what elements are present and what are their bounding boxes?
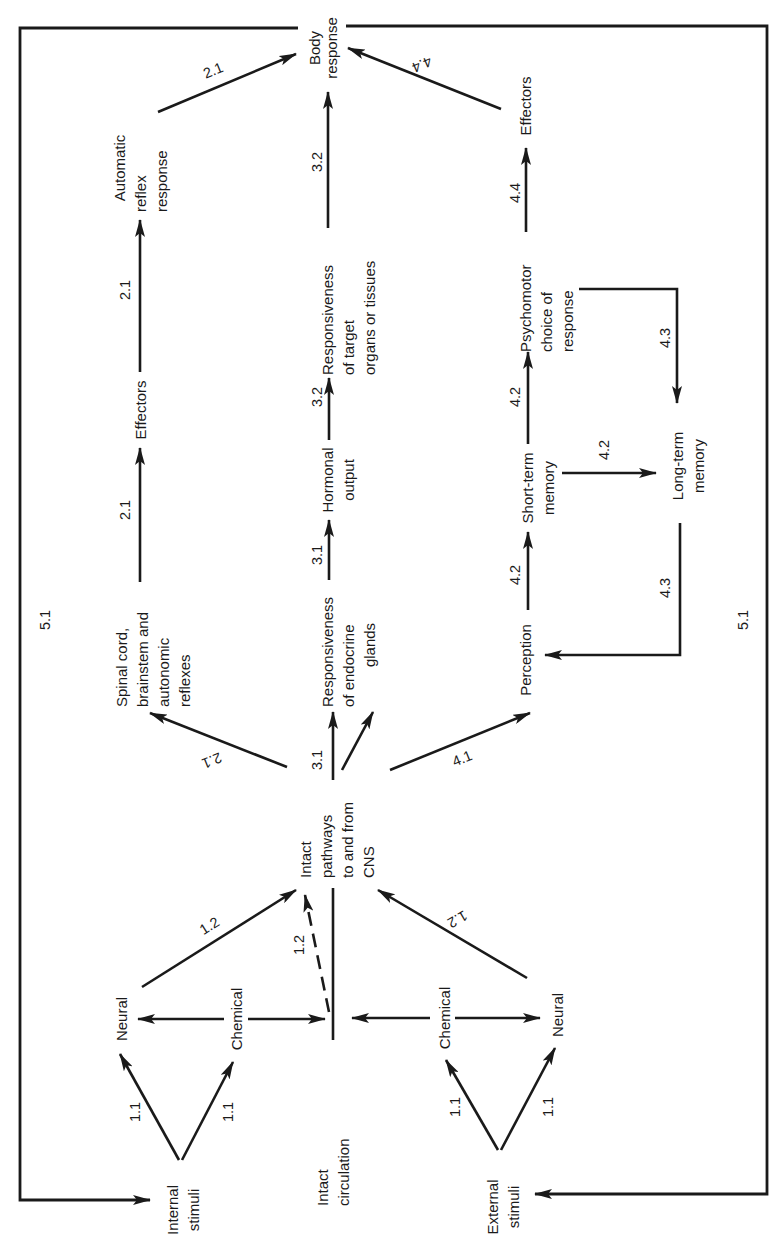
nodes: Body response Automatic reflex response … — [111, 17, 707, 1235]
edge-label-4-1: 4.1 — [450, 747, 475, 769]
node-label: response — [559, 290, 576, 352]
node-label: Psychomotor — [517, 264, 534, 352]
node-intact-pathways: Intact pathways to and from CNS — [297, 802, 377, 878]
edge-label-4-4: 4.4 — [507, 183, 523, 203]
node-label: reflex — [132, 175, 149, 212]
edge-label-1-1: 1.1 — [127, 1102, 143, 1122]
node-external-stimuli: External stimuli — [484, 1179, 522, 1234]
node-effectors-reflex: Effectors — [132, 381, 149, 440]
node-label: to and from — [339, 802, 356, 878]
node-automatic-reflex-response: Automatic reflex response — [111, 134, 170, 212]
node-label: response — [323, 17, 340, 79]
node-neural-external: Neural — [549, 993, 566, 1037]
node-body-response: Body response — [306, 17, 340, 79]
edge-label-3-2: 3.2 — [309, 152, 325, 172]
node-label: reflexes — [176, 654, 193, 707]
node-long-term-memory: Long-term memory — [669, 432, 707, 500]
node-label: Effectors — [132, 381, 149, 440]
node-label: brainstem and — [134, 612, 151, 707]
edge-label-4-3: 4.3 — [657, 328, 673, 348]
edge-label-2-1: 2.1 — [117, 280, 133, 300]
node-label: of endocrine — [340, 624, 357, 707]
node-effectors-psychomotor: Effectors — [517, 77, 534, 136]
node-label: organs or tissues — [361, 261, 378, 375]
node-spinal-cord: Spinal cord, brainstem and autonomic ref… — [113, 612, 193, 707]
node-label: Perception — [517, 624, 534, 696]
edge-pathways-to-endocrine-2 — [342, 712, 373, 770]
edge-label-1-1: 1.1 — [447, 1097, 463, 1117]
node-label: Hormonal — [319, 447, 336, 512]
node-label: autonomic — [155, 637, 172, 707]
node-label: Responsiveness — [319, 597, 336, 707]
node-label: Effectors — [517, 77, 534, 136]
node-label: output — [340, 458, 357, 501]
edge-label-1-2: 1.2 — [291, 935, 307, 955]
edge-label-2-1: 2.1 — [201, 59, 226, 81]
node-intact-circulation: Intact circulation — [314, 1138, 352, 1206]
node-label: Neural — [113, 997, 130, 1041]
edge-label-1-2: 1.2 — [445, 907, 470, 931]
node-label: Intact — [297, 840, 314, 878]
node-label: Short-term — [519, 453, 536, 524]
edge-circulation-to-pathways — [305, 895, 329, 1012]
stimulus-response-diagram: Body response Automatic reflex response … — [0, 0, 781, 1253]
node-label: circulation — [335, 1138, 352, 1206]
edge-auto-reflex-to-body — [158, 54, 296, 112]
edge-neural-ext-to-pathways — [378, 890, 527, 978]
edge-label-1-1: 1.1 — [540, 1097, 556, 1117]
node-label: response — [153, 150, 170, 212]
node-label: pathways — [318, 815, 335, 878]
edge-label-2-1: 2.1 — [200, 749, 225, 771]
node-chemical-external: Chemical — [436, 987, 453, 1050]
node-psychomotor-choice: Psychomotor choice of response — [517, 264, 576, 352]
node-label: Spinal cord, — [113, 628, 130, 707]
node-label: Automatic — [111, 134, 128, 201]
edges — [120, 48, 680, 1160]
node-responsiveness-target: Responsiveness of target organs or tissu… — [319, 261, 378, 375]
node-chemical-internal: Chemical — [228, 988, 245, 1051]
node-label: stimuli — [505, 1186, 522, 1229]
edge-label-4-2: 4.2 — [507, 387, 523, 407]
node-responsiveness-endocrine: Responsiveness of endocrine glands — [319, 597, 378, 707]
edge-label-4-3: 4.3 — [657, 578, 673, 598]
edge-label-5-1: 5.1 — [735, 610, 751, 630]
edge-labels: 1.1 1.1 1.1 1.1 1.2 1.2 1.2 2.1 2.1 2.1 … — [37, 53, 751, 1122]
edge-label-1-1: 1.1 — [220, 1102, 236, 1122]
node-label: Intact — [314, 1168, 331, 1206]
node-perception: Perception — [517, 624, 534, 696]
edge-label-4-2: 4.2 — [507, 565, 523, 585]
node-label: choice of — [538, 291, 555, 352]
edge-label-4-2: 4.2 — [596, 440, 612, 460]
node-label: Neural — [549, 993, 566, 1037]
node-label: glands — [361, 623, 378, 667]
node-label: stimuli — [185, 1189, 202, 1232]
node-label: External — [484, 1179, 501, 1234]
node-short-term-memory: Short-term memory — [519, 453, 557, 524]
node-label: Body — [306, 30, 323, 65]
node-label: Internal — [164, 1185, 181, 1235]
edge-label-3-2: 3.2 — [309, 387, 325, 407]
edge-label-4-4: 4.4 — [410, 53, 435, 76]
edge-label-5-1: 5.1 — [37, 610, 53, 630]
node-internal-stimuli: Internal stimuli — [164, 1185, 202, 1235]
node-label: memory — [540, 460, 557, 515]
node-label: Responsiveness — [319, 265, 336, 375]
node-label: of target — [340, 319, 357, 375]
edge-label-3-1: 3.1 — [309, 750, 325, 770]
node-hormonal-output: Hormonal output — [319, 447, 357, 512]
node-label: Chemical — [228, 988, 245, 1051]
node-neural-internal: Neural — [113, 997, 130, 1041]
edge-label-2-1: 2.1 — [117, 500, 133, 520]
node-label: CNS — [360, 846, 377, 878]
edge-label-1-2: 1.2 — [197, 914, 223, 938]
node-label: memory — [690, 438, 707, 493]
node-label: Long-term — [669, 432, 686, 500]
edge-neural-int-to-pathways — [142, 890, 296, 987]
node-label: Chemical — [436, 987, 453, 1050]
edge-label-3-1: 3.1 — [309, 545, 325, 565]
